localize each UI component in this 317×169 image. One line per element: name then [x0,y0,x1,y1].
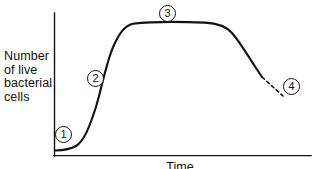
phase-marker-2-log: 2 [87,70,104,87]
y-axis-label: Number of live bacterial cells [4,50,50,104]
phase-marker-1-lag: 1 [55,126,72,143]
phase-marker-4-death: 4 [283,78,300,95]
death-phase-dashed-path [262,77,283,96]
x-axis-label: Time [150,161,210,169]
growth-curve-path [55,22,262,151]
phase-marker-3-stationary: 3 [159,5,176,22]
bacterial-growth-curve-figure: Number of live bacterial cells Time 1 2 … [0,0,317,169]
